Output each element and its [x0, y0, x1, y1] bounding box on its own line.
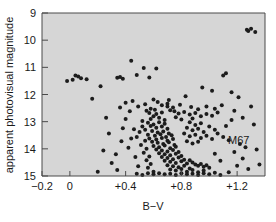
data-point-star — [163, 118, 167, 122]
data-point-star — [199, 114, 203, 118]
y-tick-label: 9 — [30, 7, 36, 19]
data-point-star — [207, 166, 211, 170]
data-point-star — [172, 109, 176, 113]
data-point-star — [124, 117, 128, 121]
data-point-star — [168, 160, 172, 164]
data-point-star — [96, 170, 100, 174]
data-point-star — [167, 140, 171, 144]
data-point-star — [160, 110, 164, 114]
data-point-star — [104, 116, 108, 120]
data-point-star — [71, 78, 75, 82]
data-point-star — [232, 150, 236, 154]
x-tick-label: +0.8 — [171, 180, 193, 192]
data-point-star — [170, 133, 174, 137]
data-point-star — [174, 152, 178, 156]
data-point-star — [224, 124, 228, 128]
data-point-star — [213, 152, 217, 156]
data-point-star — [157, 120, 161, 124]
data-point-star — [218, 159, 222, 163]
data-point-star — [99, 84, 103, 88]
data-point-star — [168, 172, 172, 176]
data-point-star — [152, 144, 156, 148]
data-point-star — [200, 85, 204, 89]
data-point-star — [129, 137, 133, 141]
data-point-star — [146, 171, 150, 175]
data-point-star — [171, 137, 175, 141]
data-point-star — [147, 137, 151, 141]
data-point-star — [241, 116, 245, 120]
data-point-star — [153, 108, 157, 112]
data-point-star — [199, 136, 203, 140]
x-tick-label: +0.4 — [115, 180, 137, 192]
data-point-star — [167, 98, 171, 102]
data-point-star — [216, 110, 220, 114]
data-point-star — [147, 154, 151, 158]
data-point-star — [124, 101, 128, 105]
data-point-star — [160, 155, 164, 159]
data-point-star — [131, 99, 135, 103]
data-point-star — [174, 161, 178, 165]
data-point-star — [142, 151, 146, 155]
data-point-star — [188, 120, 192, 124]
data-point-star — [136, 104, 140, 108]
data-point-star — [178, 103, 182, 107]
data-point-star — [179, 159, 183, 163]
data-point-star — [191, 168, 195, 172]
data-point-star — [174, 115, 178, 119]
data-point-star — [126, 146, 130, 150]
data-point-star — [79, 76, 83, 80]
data-point-star — [135, 135, 139, 139]
data-point-star — [221, 135, 225, 139]
data-point-star — [154, 147, 158, 151]
data-point-star — [184, 94, 188, 98]
data-point-star — [227, 170, 231, 174]
data-point-star — [246, 167, 250, 171]
data-point-star — [101, 148, 105, 152]
data-point-star — [168, 167, 172, 171]
data-point-star — [152, 97, 156, 101]
data-point-star — [164, 135, 168, 139]
data-point-star — [157, 151, 161, 155]
data-point-star — [143, 102, 147, 106]
data-point-star — [165, 104, 169, 108]
data-point-star — [107, 132, 111, 136]
data-point-star — [153, 134, 157, 138]
data-point-star — [156, 100, 160, 104]
data-point-star — [157, 171, 161, 175]
data-point-star — [90, 97, 94, 101]
data-point-star — [220, 103, 224, 107]
data-point-star — [185, 126, 189, 130]
data-point-star — [179, 167, 183, 171]
data-point-star — [149, 124, 153, 128]
data-point-star — [252, 122, 256, 126]
y-tick-label: 14 — [24, 143, 36, 155]
data-point-star — [193, 123, 197, 127]
cluster-annotation-m67: M67 — [228, 134, 249, 146]
data-point-star — [114, 152, 118, 156]
data-point-star — [160, 125, 164, 129]
data-point-star — [221, 73, 225, 77]
data-point-star — [171, 106, 175, 110]
data-point-star — [257, 163, 261, 167]
data-point-star — [196, 140, 200, 144]
data-point-star — [115, 168, 119, 172]
data-point-star — [191, 128, 195, 132]
data-point-star — [235, 164, 239, 168]
data-point-star — [232, 109, 236, 113]
data-point-star — [146, 166, 150, 170]
data-point-star — [182, 164, 186, 168]
data-point-star — [121, 77, 125, 81]
data-point-star — [143, 139, 147, 143]
data-point-star — [196, 107, 200, 111]
y-axis-title: apparent photovisual magnitude — [3, 17, 15, 174]
x-tick-label: +1.2 — [226, 180, 248, 192]
data-point-star — [149, 107, 153, 111]
data-point-star — [145, 158, 149, 162]
data-point-star — [147, 111, 151, 115]
data-point-star — [156, 141, 160, 145]
data-point-star — [174, 145, 178, 149]
data-point-star — [204, 104, 208, 108]
data-point-star — [237, 95, 241, 99]
y-tick-label: 15 — [24, 170, 36, 182]
data-point-star — [160, 103, 164, 107]
